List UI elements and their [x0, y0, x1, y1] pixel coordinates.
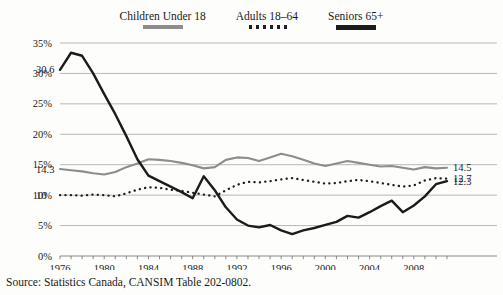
- end-value-label: 14.5: [453, 162, 471, 173]
- series-line-adults-18-64: [60, 178, 447, 196]
- x-axis-tick-label: 1984: [138, 263, 160, 270]
- x-axis-labels: 197619801984198819921996200020042008: [50, 256, 448, 270]
- end-value-label: 12.3: [453, 176, 471, 187]
- series-value-labels: 14.514.312.71012.330.6: [36, 64, 471, 200]
- y-axis-tick-label: 35%: [33, 38, 53, 49]
- series-line-seniors-65: [60, 53, 447, 234]
- start-value-label: 14.3: [36, 164, 54, 175]
- series-line-children-under-18: [60, 154, 447, 175]
- x-axis-tick-label: 1980: [94, 263, 115, 270]
- chart-page: Children Under 18 Adults 18–64 Seniors 6…: [0, 0, 503, 295]
- y-axis-tick-label: 0%: [38, 251, 52, 262]
- x-axis-tick-label: 1992: [226, 263, 247, 270]
- start-value-label: 10: [36, 190, 47, 201]
- y-axis-tick-label: 25%: [33, 98, 53, 109]
- y-axis-tick-label: 5%: [38, 220, 52, 231]
- data-series-group: [60, 53, 447, 234]
- x-axis-tick-label: 1996: [271, 263, 292, 270]
- chart-plot-area: 0%5%10%15%20%25%30%35% 19761980198419881…: [0, 0, 503, 270]
- x-axis-tick-label: 1976: [50, 263, 71, 270]
- x-axis-tick-label: 2004: [359, 263, 381, 270]
- start-value-label: 30.6: [36, 64, 54, 75]
- y-axis-tick-label: 20%: [33, 129, 53, 140]
- line-chart: 0%5%10%15%20%25%30%35% 19761980198419881…: [0, 0, 503, 270]
- source-note: Source: Statistics Canada, CANSIM Table …: [6, 275, 251, 289]
- x-axis-tick-label: 2008: [403, 263, 424, 270]
- gridlines-group: [60, 43, 497, 256]
- x-axis-tick-label: 1988: [182, 263, 203, 270]
- x-axis-tick-label: 2000: [315, 263, 336, 270]
